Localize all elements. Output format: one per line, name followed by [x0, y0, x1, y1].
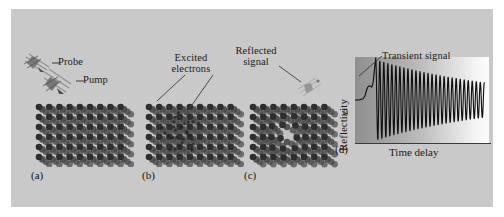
panel-label-a: (a)	[31, 169, 43, 181]
chart-x-axis-line	[355, 143, 491, 144]
probe-label: Probe	[58, 56, 83, 67]
excited-electrons-leader-line-2	[181, 75, 229, 121]
chart-x-axis-label: Time delay	[389, 146, 438, 158]
probe-leader-line	[52, 61, 60, 65]
transient-signal-label: Transient signal	[382, 50, 451, 61]
excited-electrons-line1: Excited	[175, 52, 208, 63]
atomic-lattice-icon	[29, 97, 147, 167]
panel-label-d: (d)	[335, 143, 348, 155]
excited-electrons-line2: electrons	[172, 63, 211, 74]
reflected-signal-line2: signal	[243, 56, 269, 67]
figure-panel: Probe Pump (a)	[11, 9, 493, 207]
reflected-beam-icon	[296, 77, 324, 99]
panel-label-c: (c)	[244, 169, 256, 181]
transient-signal-leader-line	[358, 56, 384, 78]
reflected-signal-line1: Reflected	[235, 45, 276, 56]
excited-electrons-label: Excited electrons	[163, 52, 219, 74]
chart-y-tick-zero: 0	[343, 107, 348, 118]
pump-beam-icon	[43, 67, 77, 97]
reflected-signal-label: Reflected signal	[225, 45, 287, 67]
panel-label-b: (b)	[142, 169, 155, 181]
pump-leader-line	[76, 79, 84, 83]
pump-label: Pump	[83, 74, 108, 85]
